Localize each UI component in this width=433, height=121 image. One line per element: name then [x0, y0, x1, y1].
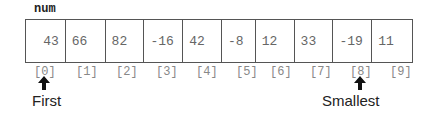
array-cell-4: 42 [183, 20, 222, 62]
array-cell-8: -19 [333, 20, 372, 62]
array-cell-9: 11 [372, 20, 412, 62]
pointer-label-smallest: Smallest [322, 92, 380, 109]
up-arrow-icon [354, 76, 366, 90]
array-cell-5: -8 [222, 20, 256, 62]
array-cell-6: 12 [256, 20, 295, 62]
array-index-7: [7] [310, 65, 332, 79]
array-index-9: [9] [390, 65, 412, 79]
array-cell-2: 82 [106, 20, 145, 62]
array-index-1: [1] [76, 65, 98, 79]
array-index-5: [5] [236, 65, 258, 79]
array-index-3: [3] [156, 65, 178, 79]
array-cell-3: -16 [144, 20, 183, 62]
array-cell-0: 43 [26, 20, 66, 62]
up-arrow-icon [38, 76, 50, 90]
array-index-6: [6] [270, 65, 292, 79]
array-cell-1: 66 [66, 20, 106, 62]
array-index-2: [2] [116, 65, 138, 79]
array-cell-7: 33 [295, 20, 334, 62]
array-name-label: num [34, 2, 56, 16]
pointer-label-first: First [32, 92, 61, 109]
array-box: 43 66 82 -16 42 -8 12 33 -19 11 [25, 19, 413, 63]
array-index-4: [4] [196, 65, 218, 79]
